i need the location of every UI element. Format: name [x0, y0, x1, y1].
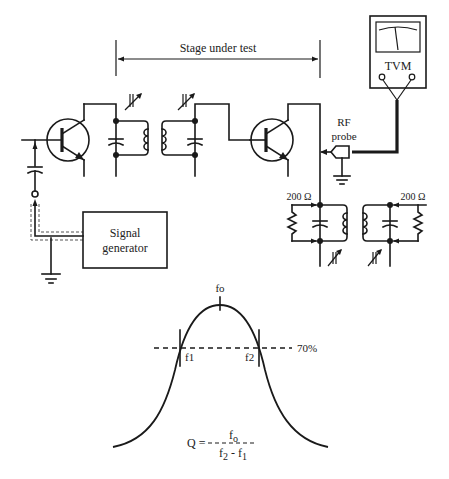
- formula-denominator: f2 - f1: [219, 446, 247, 462]
- tuned-circuit-1: [109, 93, 148, 158]
- variable-tuning-mark-1: [125, 93, 142, 110]
- response-curve: fo f1 f2 70%: [113, 282, 328, 447]
- tuned-circuit-2: [162, 93, 250, 176]
- rf-probe-label-2: probe: [331, 130, 356, 142]
- upper-frequency-label: f2: [245, 351, 254, 363]
- signal-generator-label-2: generator: [102, 241, 147, 255]
- input-coupling: [28, 140, 42, 206]
- rf-probe-label-1: RF: [337, 116, 350, 128]
- stage-label: Stage under test: [180, 41, 257, 55]
- tvm-meter: TVM: [370, 16, 426, 100]
- rf-probe: RF probe: [320, 116, 357, 184]
- resistor-left-label: 200 Ω: [287, 191, 312, 202]
- signal-generator-label-1: Signal: [110, 226, 141, 240]
- formula-lhs: Q =: [187, 436, 206, 450]
- variable-tuning-mark-4: [368, 249, 382, 266]
- resistor-right-label: 200 Ω: [401, 191, 426, 202]
- tuned-circuit-4: 200 Ω: [363, 191, 426, 266]
- lower-frequency-label: f1: [185, 351, 194, 363]
- tuned-circuit-3: 200 Ω: [287, 191, 347, 266]
- q-formula: Q = fo f2 - f1: [187, 428, 256, 462]
- formula-numerator: fo: [229, 428, 238, 444]
- variable-tuning-mark-3: [328, 249, 342, 266]
- peak-frequency-label: fo: [215, 282, 225, 294]
- tvm-label: TVM: [385, 59, 412, 73]
- if-stage-alignment-diagram: Stage under test TVM RF probe: [0, 0, 449, 479]
- generator-cable: [31, 204, 83, 283]
- variable-tuning-mark-2: [178, 93, 195, 110]
- signal-generator: Signal generator: [83, 212, 167, 268]
- transistor-1: [22, 104, 89, 176]
- level-label: 70%: [297, 342, 317, 354]
- stage-under-test-marker: Stage under test: [116, 40, 320, 78]
- meter-lead: [352, 100, 397, 152]
